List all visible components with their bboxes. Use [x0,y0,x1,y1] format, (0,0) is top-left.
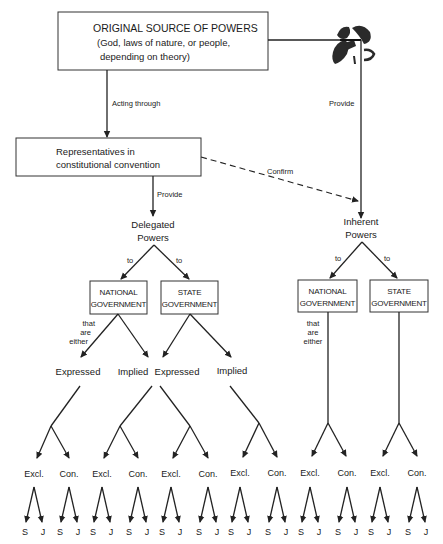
arrow-state-implied [190,314,231,357]
label-to: to [384,254,390,263]
stem-implied-1 [120,386,152,426]
arrow-sub [310,487,318,522]
label-implied: Implied [118,366,149,377]
label-acting-through: Acting through [112,99,160,108]
label-implied: Implied [217,365,248,376]
qualifier-text: that [307,319,320,328]
label-s: S [159,527,165,537]
label-confirm: Confirm [267,167,293,176]
arrow-sub [409,487,417,522]
label-j: J [354,527,359,537]
label-provide-right: Provide [329,99,354,108]
label-s: S [265,527,271,537]
label-s: S [298,527,304,537]
arrow-sub [380,487,388,522]
label-expressed: Expressed [56,366,101,377]
stem-implied-2 [230,386,259,423]
source-title: ORIGINAL SOURCE OF POWERS [93,22,258,34]
label-excl: Excl. [24,469,44,479]
arrow-sub [339,487,347,522]
label-s: S [228,527,234,537]
box-label: GOVERNMENT [162,300,218,309]
arrow-sub [240,487,248,522]
box-label: GOVERNMENT [300,299,356,308]
arrow-sub [171,487,179,522]
label-j: J [215,527,220,537]
label-to: to [335,254,341,263]
label-s: S [126,527,132,537]
box-label: STATE [387,287,411,296]
delegated-powers-line2: Powers [137,232,169,243]
inherent-national-government-box: NATIONAL GOVERNMENT [298,280,357,312]
label-con: Con. [59,469,78,479]
convention-line-1: Representatives in [56,146,135,157]
label-s: S [335,527,341,537]
excl-con-forks [37,423,417,458]
arrow-sub [269,487,277,522]
arrow-sub [200,487,208,522]
box-label: NATIONAL [100,288,139,297]
label-provide-left: Provide [157,190,182,199]
label-to: to [127,256,133,265]
arrow-delegated-to-national [121,245,154,279]
label-excl: Excl. [300,468,320,478]
delegated-national-government-box: NATIONAL GOVERNMENT [90,281,147,314]
box-label: STATE [178,288,202,297]
arrow-confirm-dashed [201,157,358,201]
label-j: J [387,527,392,537]
label-j: J [178,527,183,537]
label-con: Con. [198,469,217,479]
label-con: Con. [407,468,426,478]
source-subtitle-1: (God, laws of nature, or people, [97,37,230,48]
arrow-sub [163,487,171,522]
label-j: J [247,527,252,537]
label-j: J [145,527,150,537]
inherent-powers-line1: Inherent [344,216,379,227]
arrow-sub [94,487,102,522]
label-expressed: Expressed [155,366,200,377]
original-source-box: ORIGINAL SOURCE OF POWERS (God, laws of … [58,12,268,70]
arrow-delegated-to-state [154,245,189,279]
delegated-powers-line1: Delegated [131,219,174,230]
label-con: Con. [128,469,147,479]
label-con: Con. [267,468,286,478]
powers-diagram: ORIGINAL SOURCE OF POWERS (God, laws of … [0,0,443,544]
arrow-inherent-to-state [362,242,397,278]
label-con: Con. [337,468,356,478]
arrow-national-implied [118,314,148,357]
s-j-forks: SJSJSJSJSJSJSJSJSJSJSJSJ [22,487,428,537]
qualifier-text: either [304,337,323,346]
arrow-sub [102,487,110,522]
qualifier-text: are [80,328,91,337]
arrow-sub [26,487,34,522]
arrow-sub [372,487,380,522]
arrow-state-expressed [163,314,190,357]
inherent-powers-line2: Powers [345,229,377,240]
arrow-sub [302,487,310,522]
arrow-sub [208,487,216,522]
arrow-sub [417,487,425,522]
label-excl: Excl. [230,468,250,478]
label-s: S [368,527,374,537]
qualifier-text: that [82,319,95,328]
convention-line-2: constitutional convention [56,159,160,170]
qualifier-text: are [308,328,319,337]
label-j: J [41,527,46,537]
arrow-sub [347,487,355,522]
box-label: NATIONAL [309,287,348,296]
label-s: S [57,527,63,537]
arrow-sub [69,487,77,522]
box-label: GOVERNMENT [91,300,147,309]
arrow-sub [277,487,285,522]
label-s: S [196,527,202,537]
stem-expressed-1 [51,386,80,426]
convention-box: Representatives in constitutional conven… [16,138,201,176]
label-s: S [405,527,411,537]
stem-expressed-2 [160,386,190,426]
label-j: J [76,527,81,537]
label-j: J [284,527,289,537]
arrow-sub [138,487,146,522]
label-s: S [90,527,96,537]
label-excl: Excl. [161,469,181,479]
label-j: J [109,527,114,537]
